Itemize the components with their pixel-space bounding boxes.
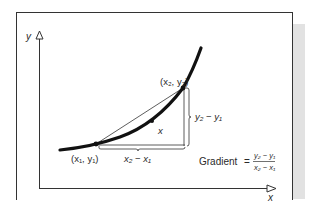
y-axis-arrow-icon [36, 31, 43, 39]
shade-bar [292, 24, 305, 199]
rise-label: y₂ − y₁ [194, 111, 222, 122]
point-mid [150, 119, 154, 123]
p2-label: (x₂, y₂) [160, 76, 188, 87]
axes [36, 31, 276, 192]
formula-lhs: Gradient [199, 156, 238, 167]
gradient-diagram: y x (x₁, y₁) (x₂, y₂) x x₂ − x₁ y₂ − y₁ … [0, 0, 316, 213]
y-axis-label: y [25, 31, 32, 42]
p1-label: (x₁, y₁) [71, 153, 99, 164]
formula-equals: = [244, 156, 250, 167]
formula-numerator: y₂ − y₁ [253, 151, 276, 160]
curve [60, 48, 201, 150]
x-axis-label: x [267, 192, 274, 203]
outer-frame [16, 12, 293, 200]
x-axis-arrow-icon [267, 185, 276, 192]
point-p1 [94, 142, 99, 147]
chord-line [96, 88, 183, 144]
mid-label: x [157, 125, 164, 136]
formula-denominator: x₂ − x₁ [253, 163, 276, 172]
run-label: x₂ − x₁ [123, 153, 151, 164]
